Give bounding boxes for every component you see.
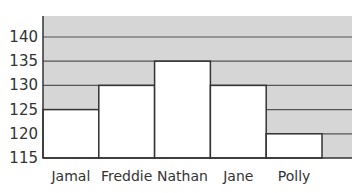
y-tick-label: 120 bbox=[9, 125, 38, 143]
x-tick-label: Polly bbox=[278, 168, 311, 184]
x-tick-label: Jamal bbox=[50, 168, 90, 184]
y-axis-ticks: 115120125130135140 bbox=[9, 28, 38, 167]
bar-chart: 115120125130135140 JamalFreddieNathanJan… bbox=[0, 0, 364, 193]
bar-freddie bbox=[99, 85, 155, 158]
bar-polly bbox=[266, 134, 322, 158]
bar-jane bbox=[210, 85, 266, 158]
x-tick-label: Jane bbox=[222, 168, 253, 184]
y-tick-label: 130 bbox=[9, 76, 38, 94]
y-tick-label: 140 bbox=[9, 28, 38, 46]
y-tick-label: 125 bbox=[9, 101, 38, 119]
y-tick-label: 115 bbox=[9, 149, 38, 167]
x-tick-label: Nathan bbox=[157, 168, 208, 184]
x-axis-labels: JamalFreddieNathanJanePolly bbox=[50, 168, 310, 184]
bar-jamal bbox=[43, 110, 99, 158]
bar-nathan bbox=[155, 61, 211, 158]
y-tick-label: 135 bbox=[9, 52, 38, 70]
x-tick-label: Freddie bbox=[101, 168, 152, 184]
